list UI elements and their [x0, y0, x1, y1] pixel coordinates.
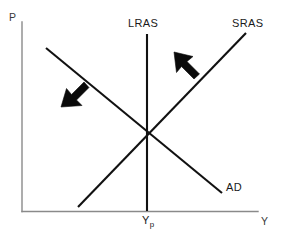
sras-shift-arrow	[174, 52, 200, 79]
ad-label: AD	[226, 182, 242, 193]
y-axis-label: P	[9, 12, 16, 23]
x-axis-label: Y	[261, 216, 268, 227]
sras-curve	[78, 33, 246, 207]
diagram-canvas	[0, 0, 282, 238]
ad-as-diagram: P Y LRAS SRAS AD Yp	[0, 0, 282, 238]
lras-label: LRAS	[128, 18, 158, 29]
ad-shift-arrow	[61, 82, 89, 107]
potential-output-tick-base: Y	[142, 214, 150, 226]
potential-output-tick-subscript: p	[150, 220, 154, 229]
potential-output-tick-label: Yp	[142, 215, 154, 227]
sras-label: SRAS	[232, 18, 264, 29]
